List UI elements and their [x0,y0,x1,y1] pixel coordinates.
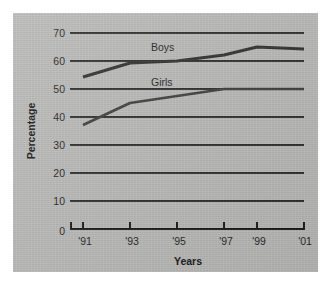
y-tick-label: 40 [53,111,65,123]
y-axis-tick-labels: 70 60 50 40 30 20 10 0 [53,27,65,237]
x-tick-label: '91 [78,235,92,247]
x-axis-title: Years [174,255,202,267]
y-tick-label: 50 [53,83,65,95]
x-tick-label: '95 [172,235,186,247]
y-tick-label: 10 [53,195,65,207]
y-axis-title: Percentage [25,103,37,160]
x-axis-tick-marks [71,222,304,229]
chart-panel: 70 60 50 40 30 20 10 0 [13,13,318,272]
y-tick-label: 0 [59,225,65,237]
y-tick-label: 60 [53,55,65,67]
series-annotation-boys: Boys [151,41,174,53]
x-tick-label: '01 [298,235,312,247]
y-tick-label: 70 [53,27,65,39]
figure-root: 70 60 50 40 30 20 10 0 [0,0,330,282]
x-tick-label: '97 [219,235,233,247]
series-line-girls [83,89,304,125]
y-tick-label: 30 [53,139,65,151]
axis-lines [70,223,305,229]
y-tick-label: 20 [53,167,65,179]
line-chart: 70 60 50 40 30 20 10 0 [13,13,318,272]
x-axis-tick-labels: '91 '93 '95 '97 '99 '01 [78,235,312,247]
x-tick-label: '99 [252,235,266,247]
series-annotation-girls: Girls [151,76,173,88]
series-line-boys [83,47,304,77]
x-tick-label: '93 [125,235,139,247]
